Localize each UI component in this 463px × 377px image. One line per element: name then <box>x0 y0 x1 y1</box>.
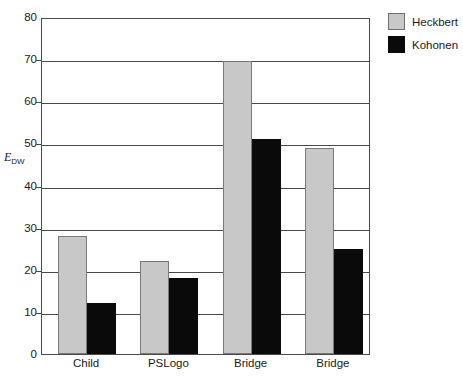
legend-swatch-kohonen <box>388 36 405 53</box>
x-tick-label: Bridge <box>211 358 291 370</box>
y-tick-label: 30 <box>3 223 37 235</box>
y-axis-title: EDW <box>4 150 25 166</box>
x-tick-label: Bridge <box>293 358 373 370</box>
legend-label-heckbert: Heckbert <box>412 16 458 28</box>
legend-label-kohonen: Kohonen <box>412 39 458 51</box>
legend-item-heckbert: Heckbert <box>388 12 463 31</box>
x-tick-label: Child <box>46 358 126 370</box>
x-tick-label: PSLogo <box>128 358 208 370</box>
y-tick-label: 50 <box>3 138 37 150</box>
bar-heckbert-pslogo-1 <box>140 261 169 354</box>
bars-layer <box>42 19 369 354</box>
bar-chart: 01020304050607080 EDW ChildPSLogoBridgeB… <box>0 0 463 377</box>
y-axis: 01020304050607080 <box>0 0 37 377</box>
x-axis-labels: ChildPSLogoBridgeBridge <box>41 358 370 377</box>
plot-area <box>41 18 370 355</box>
bar-kohonen-bridge-2 <box>252 139 281 354</box>
y-tick-label: 0 <box>3 349 37 361</box>
bar-kohonen-child-0 <box>87 303 116 354</box>
bar-kohonen-pslogo-1 <box>169 278 198 354</box>
y-axis-title-subscript: DW <box>11 157 24 166</box>
legend-swatch-heckbert <box>388 13 405 30</box>
bar-heckbert-bridge-2 <box>223 61 252 354</box>
y-tick-label: 80 <box>3 12 37 24</box>
y-tick-label: 60 <box>3 96 37 108</box>
legend: Heckbert Kohonen <box>388 12 463 58</box>
y-tick-label: 70 <box>3 54 37 66</box>
y-tick-label: 20 <box>3 265 37 277</box>
y-tick-label: 40 <box>3 181 37 193</box>
y-tick-label: 10 <box>3 307 37 319</box>
bar-kohonen-bridge-3 <box>334 249 363 354</box>
bar-heckbert-child-0 <box>58 236 87 354</box>
bar-heckbert-bridge-3 <box>305 148 334 354</box>
legend-item-kohonen: Kohonen <box>388 35 463 54</box>
